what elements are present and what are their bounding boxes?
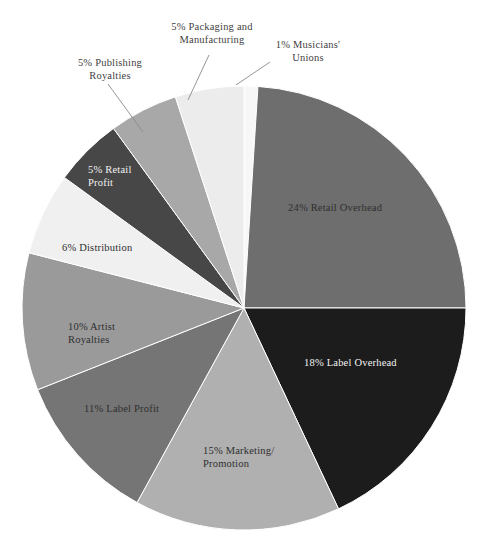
pie-chart-svg — [0, 0, 488, 560]
slice-label-artist-royalties: 10% Artist Royalties — [68, 320, 158, 346]
slice-label-label-overhead: 18% Label Overhead — [304, 356, 436, 369]
pie-chart: 5% Publishing Royalties 5% Packaging and… — [0, 0, 488, 560]
slice-label-retail-overhead: 24% Retail Overhead — [288, 201, 428, 214]
slice-label-publishing-royalties: 5% Publishing Royalties — [58, 56, 162, 82]
slice-label-label-profit: 11% Label Profit — [84, 402, 194, 415]
slice-label-marketing-promotion: 15% Marketing/ Promotion — [203, 444, 321, 470]
slice-label-musicians-unions: 1% Musicians' Unions — [262, 38, 354, 64]
slice-label-retail-profit: 5% Retail Profit — [88, 163, 160, 189]
slice-label-distribution: 6% Distribution — [62, 241, 166, 254]
pie-slice-retail-overhead[interactable] — [244, 86, 466, 308]
slice-label-packaging-and-manufacturing: 5% Packaging and Manufacturing — [148, 20, 276, 46]
leader-line-musicians-unions — [236, 62, 270, 85]
